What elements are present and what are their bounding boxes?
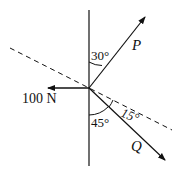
label-15: 15° [119,105,141,126]
label-30: 30° [91,48,109,63]
force-diagram: 30° P 100 N 45° 15° Q [0,0,176,170]
arc-45 [89,107,108,115]
label-p: P [131,37,141,53]
diagram-canvas: 30° P 100 N 45° 15° Q [0,0,176,170]
label-100n: 100 N [22,91,57,106]
arc-15 [109,100,113,107]
label-45: 45° [91,115,109,130]
label-q: Q [131,138,142,154]
